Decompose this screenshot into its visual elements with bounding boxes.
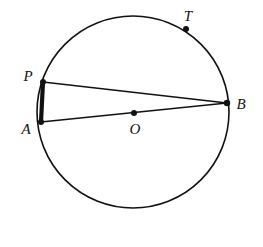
point-label-P: P [23, 69, 32, 84]
point-dot-O [131, 110, 137, 116]
point-label-T: T [184, 9, 192, 24]
point-dot-B [224, 100, 230, 106]
segment-PA [41, 82, 43, 122]
geometry-figure: P A B O T [0, 0, 263, 247]
point-dot-P [40, 79, 46, 85]
segment-PB [43, 82, 227, 103]
point-label-A: A [21, 122, 30, 137]
point-label-O: O [130, 122, 141, 137]
point-dot-A [38, 119, 44, 125]
point-dot-T [183, 26, 189, 32]
point-label-B: B [236, 97, 245, 112]
